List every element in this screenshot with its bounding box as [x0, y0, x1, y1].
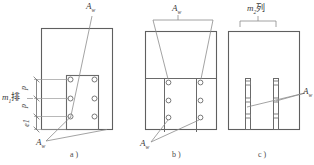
panel-a-row-group-cn: 排: [11, 92, 20, 102]
panel-b-member-outline: [146, 32, 217, 130]
panel-c-column-group-cn: 列: [256, 3, 265, 13]
panel-a-top-label: Aw: [86, 2, 95, 13]
panel-c-caption: c ): [258, 151, 266, 159]
panel-a-dimension-chain: [34, 77, 40, 133]
bolt: [92, 114, 97, 119]
bolt: [246, 98, 251, 102]
panel-b-bottom-label: Aw: [140, 139, 149, 150]
bolt: [274, 81, 279, 85]
panel-c-right-label: Aw: [303, 87, 312, 98]
panel-a-row-group-label: m1排: [2, 93, 20, 104]
panel-a-top-label-sub: w: [92, 7, 96, 13]
bolt: [166, 115, 171, 120]
panel-c: [229, 16, 306, 130]
bolt: [198, 98, 203, 103]
panel-b-top-label-sub: w: [178, 9, 182, 15]
dimension-label-p-upper: p: [20, 86, 28, 90]
panel-b: [146, 15, 217, 142]
bolt: [92, 96, 97, 101]
panel-c-right-label-sub: w: [309, 92, 313, 98]
panel-b-caption: b ): [172, 151, 181, 159]
bolt: [92, 77, 97, 82]
panel-b-top-label: Aw: [172, 4, 181, 15]
bolt: [198, 115, 203, 120]
dimension-label-e1-sub: 1: [22, 119, 31, 123]
panel-a-caption: a ): [70, 151, 78, 159]
panel-a: [27, 16, 113, 141]
bolt: [246, 114, 251, 118]
panel-a-end-plate: [67, 76, 99, 130]
bolt: [246, 81, 251, 85]
bolt: [166, 98, 171, 103]
panel-a-bottom-label: Aw: [36, 138, 45, 149]
dimension-label-e1: e1: [23, 119, 31, 127]
bolt: [166, 80, 171, 85]
cover-plate-strip: [246, 79, 251, 130]
bolt: [274, 114, 279, 118]
dimension-label-e1-base: e: [22, 123, 31, 127]
cover-plate-strip: [274, 79, 279, 130]
panel-c-member-outline: [229, 32, 300, 130]
dimension-label-p-lower: p: [20, 104, 28, 108]
panel-a-bottom-label-sub: w: [42, 143, 46, 149]
panel-b-bottom-label-sub: w: [146, 144, 150, 150]
steel-connection-bolt-layout-diagram: [0, 0, 314, 165]
panel-c-column-group-label: m2列: [247, 4, 265, 15]
bolt: [198, 80, 203, 85]
panel-c-top-bracket: [240, 16, 276, 27]
